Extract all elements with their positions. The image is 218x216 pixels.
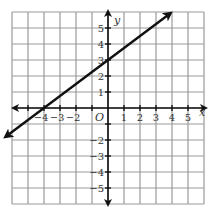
x-axis-label: x [199,106,206,119]
y-tick-label: −5 [89,183,104,194]
y-tick-label: 5 [98,23,104,34]
y-tick-label: 4 [98,39,104,50]
axes [13,11,206,205]
x-tick-label: 5 [185,112,191,123]
y-tick-label: −2 [89,135,104,146]
y-tick-label: −3 [89,151,104,162]
x-tick-label: 1 [121,112,127,123]
y-axis-label: y [113,14,121,27]
y-tick-label: 1 [98,87,104,98]
x-tick-label: 3 [153,112,159,123]
coordinate-plane: −4−3−21234554321−2−3−4−5 x y O [0,0,218,216]
x-tick-label: −2 [66,112,81,123]
series-line [6,13,171,137]
origin-label: O [95,111,104,124]
y-tick-label: −4 [89,167,104,178]
x-tick-label: 2 [137,112,143,123]
x-tick-label: 4 [169,112,175,123]
data-line [6,13,171,137]
x-tick-label: −3 [50,112,65,123]
y-tick-label: 2 [98,71,104,82]
